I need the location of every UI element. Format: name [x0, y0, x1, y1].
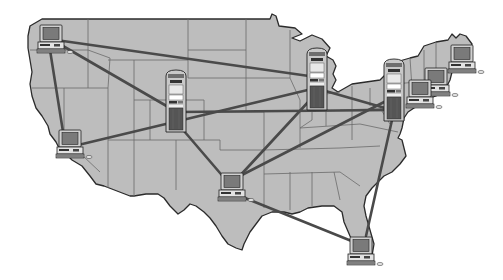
server-tower-midwest: Server (Illinois/Indiana) — [307, 48, 327, 110]
us-map-svg: Server (Colorado/Nebraska) Server (Illin… — [0, 0, 503, 280]
us-landmass — [28, 14, 472, 262]
network-map: Network of computers and servers across … — [0, 0, 503, 280]
workstation-new-england-3: Workstation (New England 3) — [448, 45, 484, 74]
workstation-florida: Workstation (Florida) — [347, 237, 383, 266]
server-tower-east: Server (Pennsylvania/New Jersey) — [384, 59, 404, 121]
server-tower-mountain: Server (Colorado/Nebraska) — [166, 70, 186, 132]
